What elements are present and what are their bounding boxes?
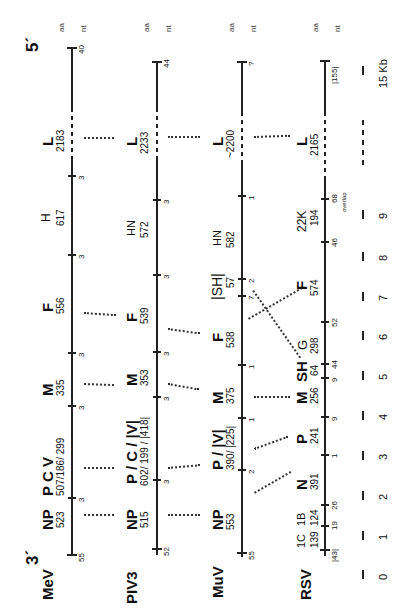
gene-label: F [210,333,225,342]
junction-tick [321,363,329,365]
gene-label: L [210,137,225,146]
header-nt-piv3: nt [165,25,173,32]
gene-label: 1C [296,534,307,548]
junction-tick [68,352,76,354]
intergenic-nt: 46 [331,238,339,247]
leader-nt: 55 [248,551,256,560]
virus-label-muv: MuV [210,566,225,598]
virus-label-rsv: RSV [298,569,313,600]
genome-line [156,158,158,555]
junction-tick [68,497,76,499]
gene-label: SH [294,361,309,382]
trailer-nt: 44 [163,59,171,68]
gene-aa: 556 [56,297,66,314]
intergenic-nt: 7 [248,296,256,300]
gene-aa: 353 [140,369,150,386]
gene-label: 22K [296,211,308,232]
junction-tick [68,254,76,256]
junction-tick [321,241,329,243]
junction-tick [321,198,329,200]
three-prime-label: 3´ [24,550,41,565]
scale-label: 8 [378,255,389,261]
end-cap [320,60,330,62]
intergenic-nt: 1 [331,454,339,458]
genome-line [71,156,73,222]
gene-aa: 57 [226,277,236,288]
junction-tick [238,195,246,197]
trailer-nt: ? [248,62,256,66]
end-cap [237,61,247,63]
homology-link [254,471,291,494]
scale-tick [362,531,364,540]
intergenic-nt: 3 [163,397,171,401]
scale-end-label: 15 Kb [378,59,389,88]
header-aa-muv: aa [228,23,236,32]
homology-link [254,135,290,138]
gene-label: M [294,392,309,405]
homology-link [84,312,116,316]
intergenic-nt: 2 [248,470,256,474]
gene-aa: ~2200 [226,130,236,158]
intergenic-nt: 9 [331,378,339,382]
junction-tick [238,364,246,366]
homology-link [168,136,200,138]
gene-label: G [296,340,309,350]
header-aa-rsv: aa [312,23,320,32]
intergenic-nt: 1 [248,196,256,200]
gene-aa: 617 [56,209,66,226]
gene-aa: 194 [310,209,320,226]
intergenic-nt: 1 [248,418,256,422]
junction-tick [321,504,329,506]
junction-tick [153,479,161,481]
gene-label: NP [124,509,139,530]
scale-tick [362,252,364,261]
gene-label: F [40,303,55,312]
gene-label: M [210,392,225,405]
scale-tick [362,331,364,340]
gene-label: M [40,384,55,397]
gene-label: P [294,434,309,444]
gene-label: |SH| [210,273,224,300]
homology-link [168,514,200,516]
gene-label: NP [40,509,55,530]
scale-break [362,120,364,168]
scale-tick [362,292,364,301]
end-cap [320,549,330,551]
junction-tick [238,469,246,471]
gene-label: F [294,281,309,290]
gene-label: N [294,479,309,490]
junction-tick [68,405,76,407]
header-nt-mev: nt [80,25,88,32]
scale-tick [362,66,364,75]
gene-aa: 572 [140,221,150,238]
junction-tick [321,321,329,323]
gene-aa: 64 [310,365,320,376]
leader-nt: 55 [78,553,86,562]
junction-tick [238,295,246,297]
gene-label: H [40,213,52,222]
overlap-label: overlap [341,192,347,212]
five-prime-label: 5´ [24,37,41,52]
intergenic-nt: 26 [331,501,339,510]
scale-label: 4 [378,414,389,420]
gene-label: P C V [40,457,55,496]
intergenic-nt: 1 [248,365,256,369]
gene-aa: 124 [310,509,320,526]
junction-tick [321,525,329,527]
virus-label-piv3: PIV3 [124,571,139,604]
scale-tick [362,210,364,219]
gene-label: HN [126,220,137,236]
intergenic-nt: 44 [331,360,339,369]
gene-aa: 241 [310,427,320,444]
header-nt-rsv: nt [334,25,342,32]
junction-tick [321,377,329,379]
end-cap [67,554,77,556]
scale-label: 9 [378,213,389,219]
gene-aa: 139 [310,531,320,548]
gene-aa: 335 [56,379,66,396]
gene-aa: 375 [226,387,236,404]
genome-line-break [324,112,326,176]
scale-tick [362,371,364,380]
genome-line [156,62,158,108]
leader-nt: 52 [163,547,171,556]
